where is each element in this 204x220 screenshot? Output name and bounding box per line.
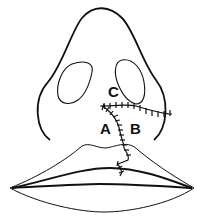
label-c: C <box>108 83 119 100</box>
lip-nose-suture-diagram: C A B <box>0 0 204 220</box>
right-nostril <box>115 60 144 104</box>
suture-line-vertical <box>102 104 131 176</box>
left-nostril <box>58 62 93 103</box>
lower-lip-outline <box>10 188 194 212</box>
mouth-line <box>12 184 192 188</box>
label-a: A <box>100 120 111 137</box>
label-b: B <box>130 120 141 137</box>
